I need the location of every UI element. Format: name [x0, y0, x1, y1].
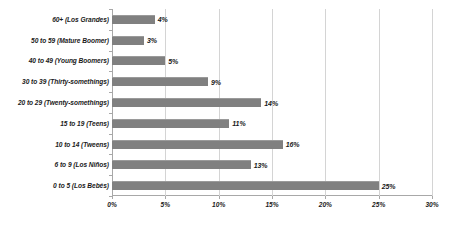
x-tick-mark — [325, 196, 326, 199]
category-label: 50 to 59 (Mature Boomer) — [0, 36, 109, 45]
category-label: 0 to 5 (Los Bebés) — [0, 181, 109, 190]
x-tick-mark — [379, 196, 380, 199]
category-label: 10 to 14 (Tweens) — [0, 140, 109, 149]
category-label: 20 to 29 (Twenty-somethings) — [0, 98, 109, 107]
x-tick-mark — [165, 196, 166, 199]
category-label: 60+ (Los Grandes) — [0, 15, 109, 24]
x-tick-label: 5% — [161, 201, 171, 208]
x-tick-label: 10% — [212, 201, 225, 208]
x-tick-label: 30% — [425, 201, 438, 208]
category-label: 15 to 19 (Teens) — [0, 119, 109, 128]
x-tick-label: 15% — [265, 201, 278, 208]
x-axis-labels: 0%5%10%15%20%25%30% — [112, 199, 432, 215]
category-label: 40 to 49 (Young Boomers) — [0, 56, 109, 65]
x-tick-label: 20% — [319, 201, 332, 208]
category-axis-labels: 60+ (Los Grandes)50 to 59 (Mature Boomer… — [0, 9, 464, 196]
x-tick-mark — [272, 196, 273, 199]
x-tick-mark — [219, 196, 220, 199]
x-tick-label: 25% — [372, 201, 385, 208]
bar-chart: 4%3%5%9%14%11%16%13%25% 60+ (Los Grandes… — [0, 0, 464, 229]
category-label: 30 to 39 (Thirty-somethings) — [0, 77, 109, 86]
category-label: 6 to 9 (Los Niños) — [0, 160, 109, 169]
x-tick-mark — [112, 196, 113, 199]
x-tick-label: 0% — [107, 201, 117, 208]
x-tick-mark — [432, 196, 433, 199]
